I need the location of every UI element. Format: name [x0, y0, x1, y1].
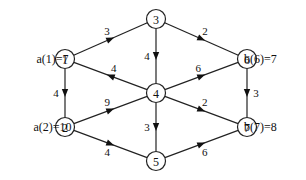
node-5: 5 [147, 152, 166, 171]
edge-2-5 [74, 130, 147, 157]
node-7: 7b(7)=8 [238, 118, 277, 137]
arrowhead-icon [62, 89, 68, 97]
node-3: 3 [147, 10, 166, 29]
arrowhead-icon [153, 123, 159, 131]
edge-weight-label: 4 [53, 87, 59, 99]
node-2: 2a(2)=10 [33, 118, 74, 137]
node-6: 6b(6)=7 [238, 50, 277, 69]
edge-1-2 [62, 69, 68, 118]
arrowhead-icon [244, 89, 250, 97]
edge-3-4 [153, 29, 159, 84]
edge-1-3 [74, 23, 148, 55]
node-annotation: a(1)=7 [36, 52, 68, 66]
edge-weight-label: 9 [105, 96, 111, 108]
nodes-layer: 1a(1)=72a(2)=103456b(6)=77b(7)=8 [33, 10, 276, 171]
edge-weight-label: 2 [202, 25, 208, 37]
arrowhead-icon [106, 108, 115, 114]
edge-weight-label: 3 [253, 87, 259, 99]
arrowhead-icon [197, 74, 206, 80]
arrowhead-icon [153, 52, 159, 60]
node-label: 4 [153, 87, 159, 101]
node-1: 1a(1)=7 [36, 50, 74, 69]
edge-weight-label: 4 [105, 146, 111, 158]
arrowhead-icon [107, 74, 116, 80]
node-annotation: b(7)=8 [244, 120, 277, 134]
node-label: 3 [153, 13, 159, 27]
arrowhead-icon [106, 140, 115, 146]
node-4: 4 [147, 84, 166, 103]
node-annotation: b(6)=7 [244, 52, 277, 66]
edge-weight-label: 3 [104, 25, 110, 37]
edge-weight-label: 6 [202, 146, 208, 158]
edge-2-4 [74, 96, 147, 123]
node-label: 5 [153, 155, 159, 169]
edge-weight-label: 4 [144, 50, 150, 62]
edge-weight-label: 3 [144, 121, 150, 133]
edge-weight-label: 2 [202, 96, 208, 108]
edge-6-7 [244, 69, 250, 118]
node-annotation: a(2)=10 [33, 120, 71, 134]
graph-canvas: 344426239436 1a(1)=72a(2)=103456b(6)=77b… [0, 0, 306, 180]
edge-4-5 [153, 103, 159, 152]
edge-4-6 [165, 62, 238, 89]
edge-weight-label: 6 [196, 62, 202, 74]
arrowhead-icon [106, 37, 115, 43]
edge-weight-label: 4 [111, 62, 117, 74]
